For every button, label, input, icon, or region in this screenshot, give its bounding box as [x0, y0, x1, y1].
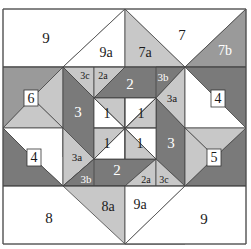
label-3a-top-right: 3a: [167, 92, 178, 104]
label-2-top: 2: [126, 76, 134, 92]
label-3a-bottom-left: 3a: [72, 151, 83, 163]
label-5: 5: [211, 150, 218, 165]
label-1-bl: 1: [104, 136, 111, 151]
label-2a-top: 2a: [98, 70, 108, 81]
label-7b: 7b: [218, 43, 232, 58]
label-9a-top: 9a: [99, 45, 113, 60]
label-3c-top: 3c: [80, 70, 90, 81]
label-7a: 7a: [138, 45, 152, 60]
label-9-top-left: 9: [42, 30, 50, 46]
label-2a-bottom: 2a: [141, 174, 151, 185]
label-9-bottom-right: 9: [200, 211, 208, 227]
label-3-left: 3: [74, 104, 82, 120]
label-3c-bottom: 3c: [159, 174, 169, 185]
label-4-left: 4: [31, 150, 38, 165]
label-8a: 8a: [101, 199, 115, 214]
label-1-br: 1: [137, 136, 144, 151]
label-2-bottom: 2: [113, 162, 121, 178]
label-8: 8: [45, 210, 53, 226]
quilt-block-diagram: 9 9a 7a 7 7b 3c 2a 2 3b 3a 6 3 4 1 1 1 1…: [0, 0, 251, 249]
label-3-right: 3: [167, 135, 175, 151]
label-9a-bottom: 9a: [133, 197, 147, 212]
label-3b-bottom: 3b: [81, 173, 93, 185]
label-4-right: 4: [215, 91, 222, 106]
label-7: 7: [178, 27, 186, 43]
label-6: 6: [28, 91, 35, 106]
label-1-tr: 1: [138, 106, 145, 121]
label-3b-top: 3b: [158, 71, 170, 83]
label-1-tl: 1: [104, 106, 111, 121]
